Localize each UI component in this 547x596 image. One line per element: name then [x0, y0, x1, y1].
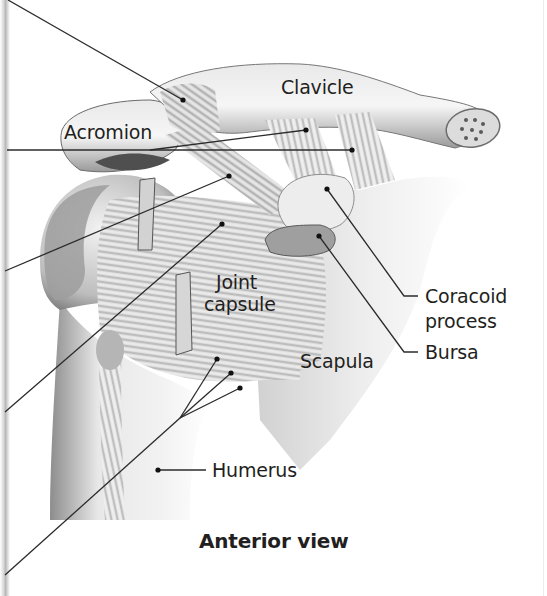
label-coracoid-line2: process	[425, 310, 497, 332]
label-joint-capsule-line1: Joint	[216, 271, 257, 293]
label-scapula: Scapula	[300, 350, 374, 372]
label-humerus: Humerus	[212, 459, 297, 481]
bursa-shape	[265, 225, 335, 256]
label-acromion: Acromion	[64, 121, 152, 143]
figure-caption: Anterior view	[199, 530, 348, 552]
label-coracoid-line1: Coracoid	[425, 285, 507, 307]
label-bursa: Bursa	[425, 341, 478, 363]
label-joint-capsule-line2: capsule	[204, 293, 276, 315]
upper-ligament-leader	[8, 0, 183, 100]
label-clavicle: Clavicle	[281, 76, 354, 98]
